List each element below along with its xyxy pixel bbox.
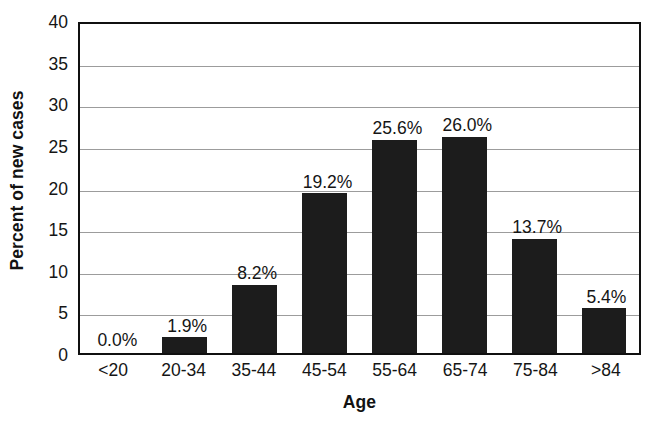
- x-axis-tick-label: 35-44: [219, 360, 289, 386]
- y-axis-tick-label: 25: [49, 136, 68, 157]
- y-axis-tick-label: 40: [49, 12, 68, 33]
- bar-slot: 8.2%: [220, 24, 290, 353]
- bar[interactable]: 19.2%: [302, 193, 347, 353]
- bar[interactable]: 26.0%: [442, 137, 487, 353]
- bar-value-label: 13.7%: [512, 219, 562, 237]
- x-axis-tick-label: 45-54: [289, 360, 359, 386]
- x-axis-tick-label: 75-84: [500, 360, 570, 386]
- y-axis-tick-label: 5: [58, 303, 68, 324]
- bar[interactable]: 25.6%: [372, 140, 417, 353]
- bar-slot: 19.2%: [290, 24, 360, 353]
- bar-value-label: 5.4%: [587, 289, 627, 307]
- bar-slot: 1.9%: [150, 24, 220, 353]
- x-axis-tick-label: 55-64: [360, 360, 430, 386]
- y-axis-tick-labels: 0510152025303540: [34, 22, 74, 355]
- y-axis-title: Percent of new cases: [0, 0, 34, 360]
- x-axis-tick-label: 65-74: [430, 360, 500, 386]
- bar-slot: 5.4%: [569, 24, 639, 353]
- bar-value-label: 19.2%: [303, 174, 353, 192]
- bar-value-label: 26.0%: [442, 117, 492, 135]
- plot-area: 0.0%1.9%8.2%19.2%25.6%26.0%13.7%5.4%: [78, 22, 641, 355]
- bar-value-label: 8.2%: [237, 265, 277, 283]
- bar-value-label: 0.0%: [97, 332, 137, 350]
- y-axis-title-text: Percent of new cases: [7, 90, 28, 270]
- bars-layer: 0.0%1.9%8.2%19.2%25.6%26.0%13.7%5.4%: [80, 24, 639, 353]
- x-axis-tick-label: 20-34: [148, 360, 218, 386]
- y-axis-tick-label: 10: [49, 261, 68, 282]
- bar-slot: 13.7%: [499, 24, 569, 353]
- bar[interactable]: 13.7%: [512, 239, 557, 353]
- y-axis-tick-label: 20: [49, 178, 68, 199]
- bar-slot: 0.0%: [80, 24, 150, 353]
- bar[interactable]: 1.9%: [162, 337, 207, 353]
- bar-value-label: 25.6%: [373, 120, 423, 138]
- x-axis-tick-label: <20: [78, 360, 148, 386]
- bar-value-label: 1.9%: [167, 318, 207, 336]
- bar-slot: 26.0%: [429, 24, 499, 353]
- x-axis-tick-labels: <2020-3435-4445-5455-6465-7475-84>84: [78, 360, 641, 386]
- bar-chart-figure: Percent of new cases 0510152025303540 0.…: [0, 0, 657, 427]
- y-axis-tick-label: 35: [49, 53, 68, 74]
- x-axis-tick-label: >84: [571, 360, 641, 386]
- y-axis-tick-label: 30: [49, 95, 68, 116]
- bar-slot: 25.6%: [360, 24, 430, 353]
- y-axis-tick-label: 0: [58, 345, 68, 366]
- bar[interactable]: 8.2%: [232, 285, 277, 353]
- bar[interactable]: 5.4%: [582, 308, 627, 353]
- x-axis-title: Age: [78, 392, 641, 413]
- y-axis-tick-label: 15: [49, 220, 68, 241]
